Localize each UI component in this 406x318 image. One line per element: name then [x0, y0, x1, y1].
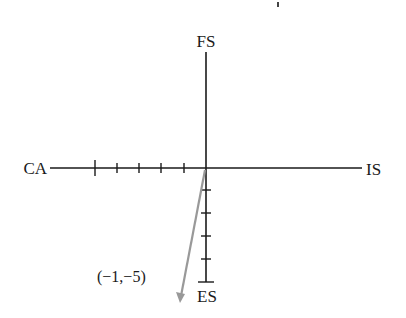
- axis-label-left: CA: [23, 159, 47, 178]
- axes-diagram: FS ES CA IS (−1,−5): [0, 0, 406, 318]
- axis-label-bottom: ES: [197, 287, 217, 306]
- arrowhead-icon: [176, 292, 185, 303]
- vector-label: (−1,−5): [97, 268, 146, 286]
- vector-arrow: [176, 170, 205, 303]
- stray-mark: [277, 2, 279, 7]
- axis-label-top: FS: [197, 32, 216, 51]
- axis-label-right: IS: [366, 160, 381, 179]
